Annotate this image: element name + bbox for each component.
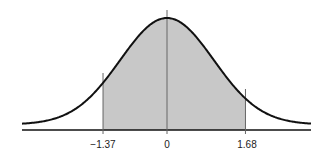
normal-curve-chart <box>0 0 328 157</box>
tick-label-left: −1.37 <box>90 139 115 150</box>
tick-label-right: 1.68 <box>237 139 256 150</box>
tick-label-center: 0 <box>164 139 170 150</box>
